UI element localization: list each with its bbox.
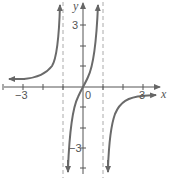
curve-right-branch — [108, 96, 143, 168]
y-axis-label: y — [72, 0, 79, 13]
x-axis-label: x — [160, 87, 167, 101]
y-tick-label-3: 3 — [72, 19, 78, 31]
x-tick-label-3: 3 — [139, 89, 145, 101]
x-tick-label-neg3: −3 — [15, 89, 28, 101]
graph: y x 0 −3 3 3 −3 — [0, 0, 170, 180]
origin-label: 0 — [85, 89, 91, 101]
curve-left-branch — [24, 5, 60, 79]
y-tick-label-neg3: −3 — [69, 142, 82, 154]
